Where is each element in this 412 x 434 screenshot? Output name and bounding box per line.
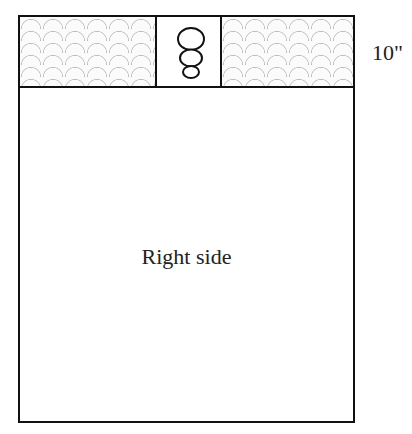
top-band (20, 17, 353, 88)
panel-label: Right side (20, 244, 353, 270)
fabric-swatch-right (222, 17, 353, 86)
band-height-dimension: 10" (372, 40, 403, 66)
panel-outline: Right side (18, 15, 355, 423)
center-block (155, 17, 222, 86)
fabric-swatch-left (20, 17, 155, 86)
snowman-applique-icon (171, 25, 211, 83)
